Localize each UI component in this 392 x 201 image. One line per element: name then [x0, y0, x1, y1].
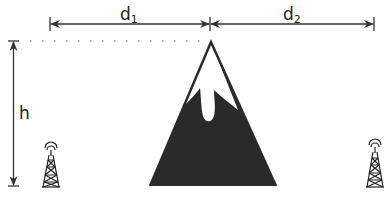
left-tower-icon	[42, 142, 60, 187]
right-tower-icon	[366, 139, 384, 187]
d1-label-base: d	[120, 4, 131, 24]
d2-label: d2	[283, 6, 301, 25]
d1-label-subscript: 1	[131, 13, 138, 26]
d1-label: d1	[120, 6, 138, 25]
h-label: h	[19, 105, 30, 122]
mountain-icon	[150, 42, 276, 186]
h-dimension-arrow	[8, 41, 19, 186]
d2-label-subscript: 2	[294, 13, 301, 26]
diagram-canvas	[0, 0, 392, 201]
d2-label-base: d	[283, 4, 294, 24]
